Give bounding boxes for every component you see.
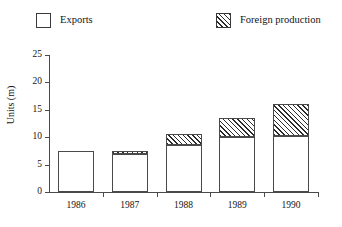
bar-segment-1989-foreign-production bbox=[219, 118, 255, 137]
legend-swatch-exports-icon bbox=[36, 13, 51, 28]
x-tick-mark bbox=[157, 192, 158, 197]
bar-segment-1989-exports bbox=[219, 137, 255, 192]
bar-segment-1990-foreign-production bbox=[273, 104, 309, 136]
x-axis-label-1986: 1986 bbox=[66, 201, 85, 211]
y-tick-mark bbox=[45, 192, 49, 193]
legend-entry-foreign-production: Foreign production bbox=[216, 13, 321, 28]
legend-swatch-foreign-production-icon bbox=[216, 13, 231, 28]
y-tick-label: 5 bbox=[37, 160, 42, 170]
y-tick-label: 15 bbox=[33, 105, 43, 115]
plot-area: 0 5 10 15 20 25 19861987198819891990 bbox=[49, 55, 318, 192]
x-axis-label-1987: 1987 bbox=[120, 201, 139, 211]
bar-segment-1988-foreign-production bbox=[166, 134, 202, 145]
y-tick-label: 25 bbox=[33, 50, 43, 60]
bar-segment-1990-exports bbox=[273, 136, 309, 192]
y-tick-mark bbox=[45, 110, 49, 111]
y-tick-mark bbox=[45, 55, 49, 56]
legend-entry-exports: Exports bbox=[36, 13, 93, 28]
y-tick-label: 20 bbox=[33, 78, 43, 88]
bar-segment-1987-foreign-production bbox=[112, 151, 148, 154]
x-tick-mark bbox=[103, 192, 104, 197]
y-axis-line bbox=[49, 55, 50, 193]
y-tick-label: 10 bbox=[33, 132, 43, 142]
y-tick-mark bbox=[45, 165, 49, 166]
legend-label-foreign-production: Foreign production bbox=[240, 15, 321, 26]
y-tick-mark bbox=[45, 137, 49, 138]
chart-legend: Exports Foreign production bbox=[0, 0, 342, 40]
x-tick-mark bbox=[210, 192, 211, 197]
bar-segment-1986-exports bbox=[58, 151, 94, 192]
x-axis-label-1988: 1988 bbox=[174, 201, 193, 211]
legend-label-exports: Exports bbox=[60, 15, 93, 26]
x-axis-line bbox=[49, 192, 318, 193]
x-tick-mark bbox=[318, 192, 319, 197]
chart-figure: Exports Foreign production Units (m) 0 5… bbox=[0, 0, 342, 227]
x-tick-mark bbox=[264, 192, 265, 197]
x-axis-label-1990: 1990 bbox=[282, 201, 301, 211]
x-axis-label-1989: 1989 bbox=[228, 201, 247, 211]
bar-segment-1988-exports bbox=[166, 145, 202, 192]
y-tick-mark bbox=[45, 82, 49, 83]
bar-segment-1987-exports bbox=[112, 154, 148, 192]
y-tick-label: 0 bbox=[37, 187, 42, 197]
y-axis-title: Units (m) bbox=[5, 86, 16, 125]
